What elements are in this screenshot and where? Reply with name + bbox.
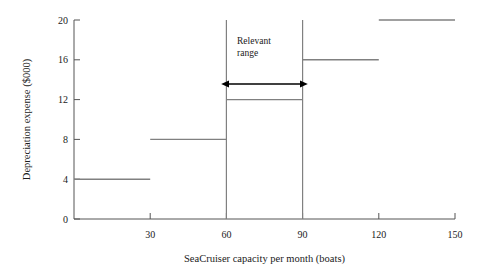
x-axis-tick-labels: 30 60 90 120 150 xyxy=(145,229,462,240)
y-tick-label-0: 0 xyxy=(63,214,68,225)
chart-canvas: 0 4 8 12 16 20 30 60 90 120 150 xyxy=(0,0,486,280)
axes xyxy=(74,20,455,219)
y-axis-tick-labels: 0 4 8 12 16 20 xyxy=(58,15,68,225)
x-tick-label-150: 150 xyxy=(448,229,463,240)
y-tick-label-4: 4 xyxy=(63,174,68,185)
relevant-range-label-line2: range xyxy=(237,48,258,58)
x-tick-label-120: 120 xyxy=(371,229,386,240)
relevant-range-annotation: Relevant range xyxy=(229,36,300,84)
x-axis-title: SeaCruiser capacity per month (boats) xyxy=(184,253,345,265)
y-axis-ticks xyxy=(74,20,80,219)
y-tick-label-8: 8 xyxy=(63,134,68,145)
y-axis-title: Depreciation expense ($000) xyxy=(21,58,33,180)
y-tick-label-12: 12 xyxy=(58,94,68,105)
x-tick-label-60: 60 xyxy=(221,229,231,240)
x-tick-label-30: 30 xyxy=(145,229,155,240)
relevant-range-label-line1: Relevant xyxy=(237,36,271,46)
y-tick-label-20: 20 xyxy=(58,15,68,26)
x-tick-label-90: 90 xyxy=(298,229,308,240)
y-tick-label-16: 16 xyxy=(58,54,68,65)
step-chart-figure: 0 4 8 12 16 20 30 60 90 120 150 xyxy=(0,0,486,280)
